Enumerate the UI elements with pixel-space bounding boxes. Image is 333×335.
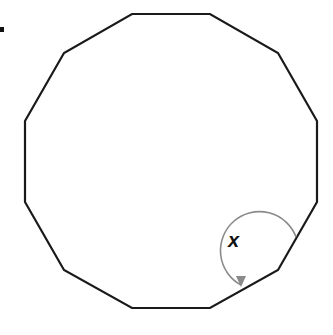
arrowhead-icon [236, 276, 246, 287]
margin-mark [0, 27, 4, 32]
dodecagon [25, 14, 317, 308]
dodecagon-diagram: x [0, 0, 333, 335]
angle-label-x: x [227, 229, 240, 251]
